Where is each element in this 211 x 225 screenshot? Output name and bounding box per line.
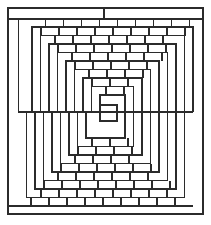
brick-maze-figure [0,0,211,225]
bottom-cup [35,112,176,189]
center-square-rect [100,105,117,121]
bottom-nested-cups [27,112,185,198]
center-square [100,105,117,121]
outer-frame [8,8,203,214]
bottom-cup [69,112,142,155]
outer-frame-rect [8,8,203,214]
bottom-cup [86,112,125,138]
top-arch [100,95,125,112]
top-arch [92,87,134,113]
